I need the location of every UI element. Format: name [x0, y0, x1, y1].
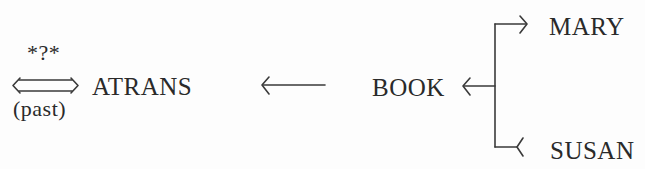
recipient-arrow-icon: [463, 78, 495, 95]
recipient-bracket: [495, 16, 527, 156]
recipient-to-label: MARY: [549, 14, 625, 39]
tense-marker-label: *?*: [27, 42, 60, 64]
recipient-from-label: SUSAN: [550, 138, 634, 163]
object-label: BOOK: [372, 75, 445, 100]
primitive-act-label: ATRANS: [92, 74, 192, 99]
double-arrow-icon: [13, 78, 78, 93]
cd-diagram: *?* (past) ATRANS BOOK MARY SUSAN: [0, 0, 645, 169]
tense-label: (past): [13, 98, 66, 120]
object-arrow-icon: [262, 77, 325, 94]
